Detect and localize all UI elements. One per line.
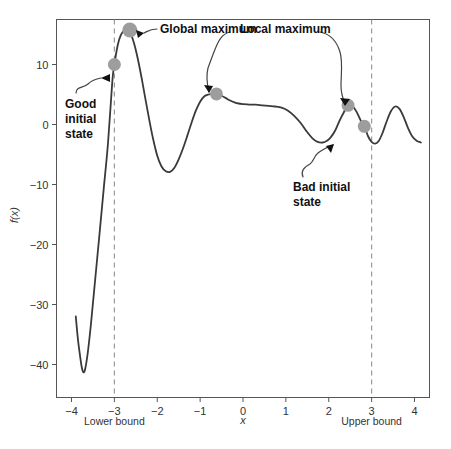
marker-good-initial-state: [108, 58, 121, 71]
figure-background: [0, 0, 451, 449]
x-axis-title: x: [239, 414, 246, 426]
x-tick-label: 1: [283, 405, 289, 417]
y-axis-title: f(x): [8, 207, 20, 223]
function-plot-figure: −4−3−2−101234 100−10−20−30−40 x f(x) Low…: [0, 0, 451, 449]
y-tick-label: −40: [30, 359, 49, 371]
upper-bound-label: Upper bound: [341, 415, 402, 427]
marker-local-maximum-left: [210, 87, 223, 100]
lower-bound-label: Lower bound: [84, 415, 145, 427]
y-tick-label: −10: [30, 179, 49, 191]
y-tick-label: −20: [30, 239, 49, 251]
good-initial-state-label: Good initial state: [65, 97, 96, 141]
x-tick-label: 4: [411, 405, 417, 417]
x-tick-label: 2: [326, 405, 332, 417]
y-tick-label: 0: [42, 119, 48, 131]
bad-initial-state-line-1: Bad initial: [293, 180, 350, 194]
good-initial-state-line-3: state: [65, 127, 93, 141]
good-initial-state-line-1: Good: [65, 97, 96, 111]
y-tick-label: −30: [30, 299, 49, 311]
marker-bad-initial-state: [358, 120, 371, 133]
y-tick-label: 10: [36, 59, 48, 71]
x-tick-label: −2: [151, 405, 164, 417]
x-tick-label: −4: [65, 405, 78, 417]
x-tick-label: −1: [194, 405, 207, 417]
marker-global-maximum: [122, 23, 137, 38]
good-initial-state-line-2: initial: [65, 112, 96, 126]
local-maximum-label: Local maximum: [240, 22, 331, 36]
bad-initial-state-line-2: state: [293, 195, 321, 209]
